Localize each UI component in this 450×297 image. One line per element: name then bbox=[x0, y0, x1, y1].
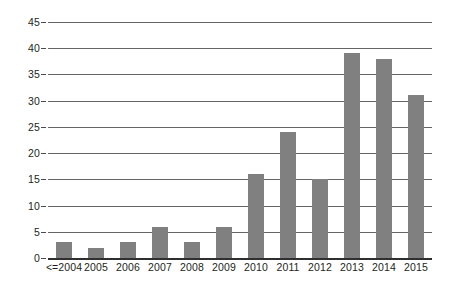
y-tick-mark bbox=[41, 48, 46, 49]
y-tick-label: 15 bbox=[10, 174, 40, 185]
y-tick-label: 0 bbox=[10, 253, 40, 264]
bar bbox=[184, 242, 200, 258]
x-axis: <=20042005200620072008200920102011201220… bbox=[48, 262, 432, 282]
y-tick-mark bbox=[41, 153, 46, 154]
y-tick-mark bbox=[41, 101, 46, 102]
bar bbox=[280, 132, 296, 258]
bar-chart: 051015202530354045 <=2004200520062007200… bbox=[0, 0, 450, 297]
bar bbox=[408, 95, 424, 258]
y-tick-mark bbox=[41, 232, 46, 233]
y-tick-label: 45 bbox=[10, 17, 40, 28]
bar bbox=[56, 242, 72, 258]
y-tick-mark bbox=[41, 22, 46, 23]
bar bbox=[344, 53, 360, 258]
bar bbox=[88, 248, 104, 258]
bar bbox=[120, 242, 136, 258]
y-tick-label: 30 bbox=[10, 96, 40, 107]
y-tick-mark bbox=[41, 74, 46, 75]
x-tick-label: 2015 bbox=[394, 262, 438, 273]
y-tick-label: 5 bbox=[10, 227, 40, 238]
bar bbox=[152, 227, 168, 258]
bar bbox=[216, 227, 232, 258]
y-axis: 051015202530354045 bbox=[0, 22, 40, 258]
y-tick-mark bbox=[41, 179, 46, 180]
y-tick-label: 25 bbox=[10, 122, 40, 133]
y-tick-label: 20 bbox=[10, 148, 40, 159]
y-tick-label: 35 bbox=[10, 69, 40, 80]
y-tick-mark bbox=[41, 127, 46, 128]
bar bbox=[248, 174, 264, 258]
bar bbox=[312, 179, 328, 258]
y-tick-mark bbox=[41, 258, 46, 259]
bar bbox=[376, 59, 392, 258]
y-tick-mark bbox=[41, 206, 46, 207]
y-tick-label: 40 bbox=[10, 43, 40, 54]
bar-series bbox=[48, 22, 432, 258]
axis-baseline bbox=[48, 258, 432, 260]
y-tick-label: 10 bbox=[10, 201, 40, 212]
